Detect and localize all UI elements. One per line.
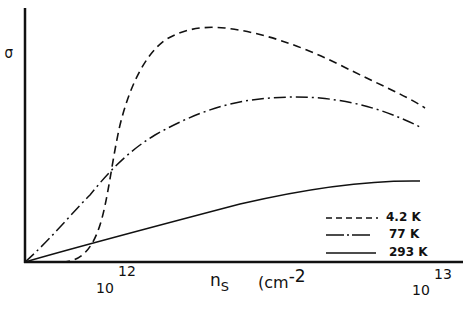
- plot-area: [0, 0, 470, 318]
- legend-label-4-2k: 4.2 K: [386, 210, 421, 224]
- x-axis-unit-main: (cm: [258, 273, 289, 292]
- y-axis-label: σ: [4, 44, 13, 62]
- series-4-2k: [62, 27, 425, 262]
- series-77k: [25, 97, 420, 262]
- series-293k: [25, 181, 420, 262]
- legend-label-77k: 77 K: [389, 227, 419, 241]
- x-tick-1e13-base: 10: [412, 282, 430, 298]
- x-axis-label-main: n: [210, 270, 221, 290]
- x-tick-1e12-base: 10: [96, 280, 114, 296]
- x-axis-label-subscript: S: [221, 279, 229, 294]
- x-axis-unit: (cm-2: [258, 272, 306, 292]
- x-tick-1e13-exp: 13: [434, 266, 452, 282]
- x-axis-label: nS: [210, 270, 229, 290]
- x-axis-unit-exp: -2: [289, 266, 306, 286]
- x-tick-1e12-exp: 12: [118, 263, 136, 279]
- legend-label-293k: 293 K: [389, 245, 428, 259]
